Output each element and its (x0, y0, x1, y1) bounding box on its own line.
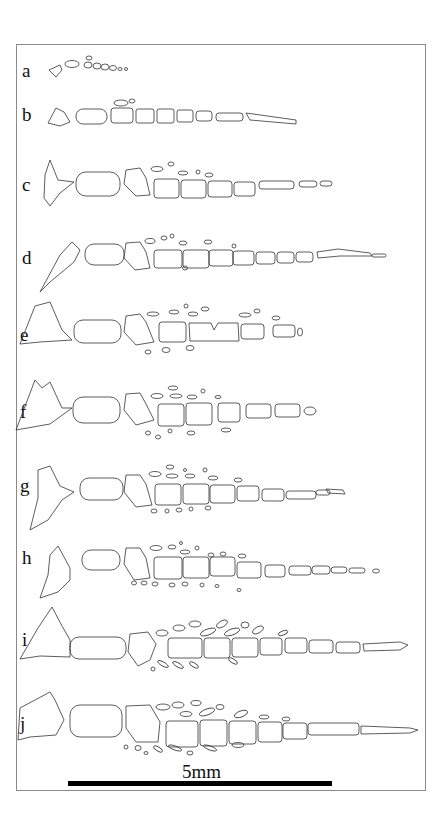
drawing-b (48, 99, 296, 126)
drawing-i (20, 607, 408, 671)
drawing-g (30, 465, 345, 530)
scale-bar (68, 781, 332, 786)
drawing-j (18, 692, 418, 755)
drawing-d (40, 234, 386, 292)
fin-skeleton-drawings (0, 0, 443, 838)
drawing-e (20, 302, 303, 354)
drawing-f (16, 380, 316, 439)
scale-bar-label: 5mm (182, 762, 221, 781)
drawing-c (44, 160, 332, 206)
drawing-a (49, 56, 128, 77)
drawing-h (40, 542, 380, 599)
